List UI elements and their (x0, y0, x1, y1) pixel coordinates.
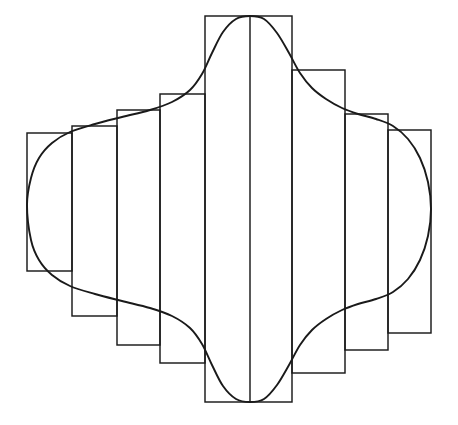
rect-6 (292, 70, 345, 373)
rect-8 (388, 130, 431, 333)
rect-5-center (205, 16, 292, 402)
rect-7 (345, 114, 388, 350)
curve-and-rectangles-diagram (0, 0, 458, 425)
figure-canvas (0, 0, 458, 425)
closed-curve (27, 16, 431, 402)
rect-2 (72, 126, 117, 316)
rectangle-group (27, 16, 431, 402)
